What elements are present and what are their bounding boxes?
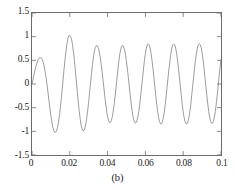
figure-panel: -1.5-1-0.500.511.5 00.020.040.060.080.1 … xyxy=(0,0,235,190)
x-tick-label: 0 xyxy=(29,159,34,169)
x-tick-label: 0.04 xyxy=(99,159,115,169)
x-tick-label: 0.02 xyxy=(61,159,77,169)
x-axis-tick-labels: 00.020.040.060.080.1 xyxy=(0,0,235,190)
x-tick-label: 0.08 xyxy=(176,159,192,169)
x-tick-label: 0.06 xyxy=(138,159,154,169)
x-tick-label: 0.1 xyxy=(216,159,227,169)
figure-caption: (b) xyxy=(0,172,235,183)
